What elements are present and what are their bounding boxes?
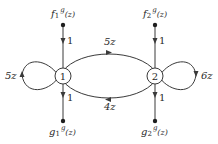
- arrow-icon: [61, 92, 66, 98]
- source-f1: 1 f1g(z): [50, 6, 75, 68]
- self-loop-node-2: 6z: [160, 62, 213, 90]
- source-terminal-f1: [61, 23, 65, 27]
- node-2-label: 2: [152, 71, 158, 82]
- edge-1-to-2: 5z: [62, 36, 156, 72]
- signal-flow-graph: 5z 6z 5z 4z 1 f1g(z) 1 f2g(z) 1: [0, 0, 218, 144]
- self-loop-2-gain: 6z: [201, 70, 213, 81]
- arrow-icon: [153, 38, 158, 44]
- edge-1-2-gain: 5z: [104, 36, 116, 47]
- sink-g1: 1 g1g(z): [49, 84, 76, 138]
- sink-g2-gain: 1: [159, 92, 165, 103]
- edge-2-1-gain: 4z: [103, 101, 116, 112]
- self-loop-1-gain: 5z: [5, 70, 17, 81]
- sink-g1-gain: 1: [67, 92, 73, 103]
- sink-g1-label: g1g(z): [49, 124, 76, 138]
- arrow-icon: [194, 71, 199, 77]
- source-f2-label: f2g(z): [142, 6, 167, 20]
- edge-2-to-1: 4z: [62, 80, 156, 112]
- node-1: 1: [55, 68, 71, 84]
- source-f1-label: f1g(z): [50, 6, 75, 20]
- sink-g2: 1 g2g(z): [141, 84, 168, 138]
- arrow-icon: [20, 71, 25, 77]
- sink-g2-label: g2g(z): [141, 124, 168, 138]
- self-loop-node-1: 5z: [5, 62, 58, 90]
- arrow-icon: [61, 38, 66, 44]
- source-f2-gain: 1: [159, 35, 165, 46]
- node-1-label: 1: [60, 71, 66, 82]
- source-f1-gain: 1: [67, 35, 73, 46]
- sink-terminal-g2: [153, 119, 157, 123]
- arrow-icon: [153, 92, 158, 98]
- source-f2: 1 f2g(z): [142, 6, 167, 68]
- source-terminal-f2: [153, 23, 157, 27]
- node-2: 2: [147, 68, 163, 84]
- sink-terminal-g1: [61, 119, 65, 123]
